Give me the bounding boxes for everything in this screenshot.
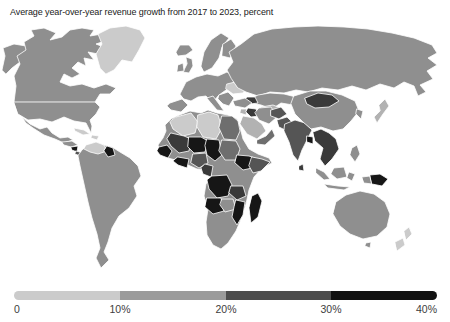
region-russia	[227, 26, 437, 96]
region-new-zealand-north	[404, 227, 412, 240]
choropleth-figure: Average year-over-year revenue growth fr…	[0, 0, 450, 322]
region-ireland	[177, 63, 184, 72]
scale-tick-20: 20%	[215, 303, 236, 315]
region-south-america	[78, 142, 141, 268]
color-scale-bar	[14, 291, 437, 300]
region-iceland	[176, 45, 193, 56]
region-borneo	[331, 167, 347, 179]
region-philippines	[350, 145, 360, 162]
scale-segment-0-10	[14, 291, 120, 300]
region-tasmania	[365, 242, 371, 248]
chart-title: Average year-over-year revenue growth fr…	[10, 7, 273, 17]
scale-tick-10: 10%	[109, 303, 130, 315]
region-korea	[356, 109, 363, 119]
region-cameroon-gabon	[201, 164, 213, 177]
region-uk	[183, 57, 193, 73]
scale-tick-40: 40%	[416, 303, 437, 315]
region-japan	[374, 99, 389, 123]
region-iberia	[167, 99, 188, 112]
region-usa	[14, 102, 100, 133]
scale-tick-0: 0	[14, 303, 20, 315]
scale-tick-30: 30%	[320, 303, 341, 315]
region-png	[370, 174, 388, 186]
scale-segment-30-40	[331, 291, 437, 300]
world-map	[0, 26, 450, 278]
region-java	[324, 184, 350, 190]
region-bangladesh	[307, 136, 313, 144]
region-indochina	[313, 129, 339, 166]
scale-segment-10-20	[120, 291, 226, 300]
region-sulawesi	[347, 172, 355, 181]
region-greenland	[96, 26, 145, 74]
scale-segment-20-30	[226, 291, 332, 300]
region-new-zealand-south	[395, 238, 405, 251]
region-sri-lanka	[299, 164, 304, 171]
region-ghana-ivory-coast	[173, 157, 189, 168]
region-australia	[333, 191, 390, 239]
region-hispaniola	[91, 135, 99, 140]
region-cuba	[74, 128, 90, 135]
region-madagascar	[249, 193, 262, 223]
region-sumatra-malaysia	[316, 168, 330, 180]
